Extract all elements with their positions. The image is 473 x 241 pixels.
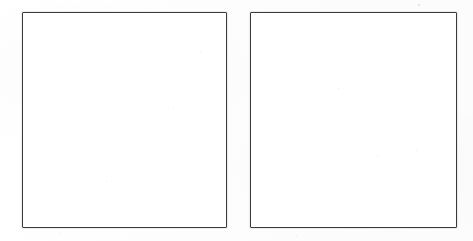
scan-speck [60,233,61,234]
panel-left[interactable] [22,12,227,228]
scan-sheet [0,0,473,241]
panel-right[interactable] [250,12,457,228]
scan-speck [418,4,420,6]
panel-right-content [251,13,456,227]
panel-left-content [23,13,226,227]
scan-speck [296,236,297,237]
